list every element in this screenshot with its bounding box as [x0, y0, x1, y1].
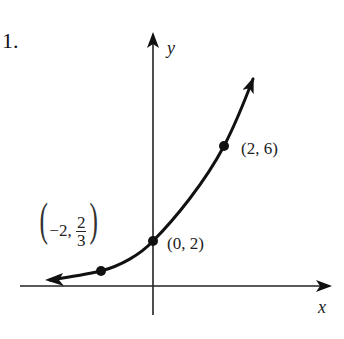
fraction-denominator: 3: [76, 232, 87, 249]
x-axis-label: x: [318, 297, 326, 318]
fraction-numerator: 2: [76, 214, 87, 232]
point-label-neg2-two-thirds: (−2, 23): [36, 197, 102, 249]
fraction: 23: [76, 214, 87, 249]
point-label-2-6: (2, 6): [241, 139, 278, 159]
exponential-curve: [50, 79, 253, 280]
right-paren: ): [90, 197, 98, 243]
y-axis-label: y: [167, 38, 175, 59]
point-0: [148, 236, 158, 246]
point-neg2: [96, 266, 106, 276]
point-label-x: −2,: [49, 221, 71, 240]
left-paren: (: [39, 197, 47, 243]
point-label-0-2: (0, 2): [167, 234, 204, 254]
point-2: [219, 141, 229, 151]
